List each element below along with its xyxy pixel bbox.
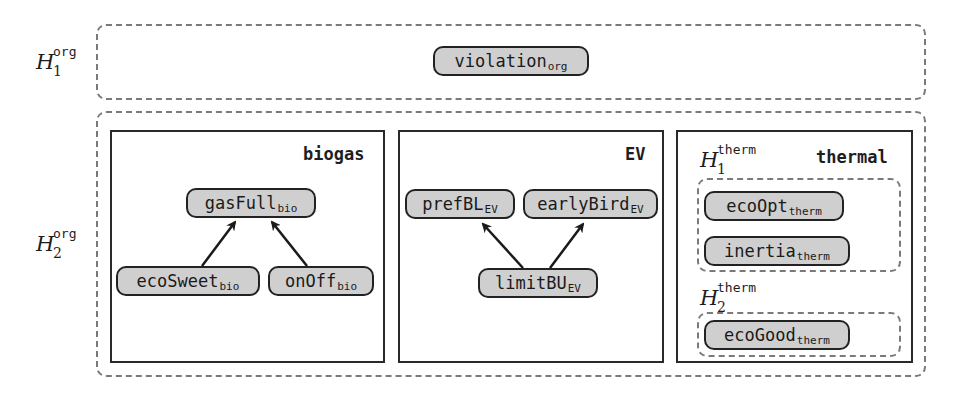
h1-therm-symbol: H (700, 148, 718, 172)
node-earlyBird[interactable]: earlyBirdEV (523, 189, 658, 219)
h2-symbol: H (36, 232, 54, 256)
h2-therm-symbol: H (700, 286, 718, 310)
node-ecoSweet[interactable]: ecoSweetbio (116, 266, 260, 296)
h1-therm-label: H therm 1 (700, 148, 718, 172)
node-violation[interactable]: violationorg (433, 46, 589, 76)
h2-sub: 2 (53, 245, 62, 261)
node-subscript: bio (220, 280, 240, 293)
h1-symbol: H (36, 50, 54, 74)
node-subscript: bio (337, 280, 357, 293)
node-label: inertia (724, 241, 796, 261)
group-biogas-title: biogas (303, 144, 364, 164)
node-label: ecoGood (724, 325, 796, 345)
node-inertia[interactable]: inertiatherm (704, 236, 850, 266)
node-prefBL[interactable]: prefBLEV (405, 189, 515, 219)
h1-sup: org (53, 44, 76, 59)
group-ev (398, 130, 664, 363)
node-gasFull[interactable]: gasFullbio (186, 188, 316, 218)
node-label: violation (455, 51, 547, 71)
node-label: prefBL (422, 194, 483, 214)
node-subscript: EV (568, 282, 581, 295)
node-label: limitBU (495, 273, 567, 293)
group-thermal-title: thermal (816, 147, 888, 167)
h1-therm-sup: therm (717, 142, 756, 157)
node-label: earlyBird (537, 194, 629, 214)
node-limitBU[interactable]: limitBUEV (478, 268, 598, 298)
node-subscript: therm (797, 334, 830, 347)
h1-org-label: H org 1 (36, 50, 54, 74)
h1-sub: 1 (53, 63, 62, 79)
h2-therm-sup: therm (717, 280, 756, 295)
node-label: onOff (285, 271, 336, 291)
node-subscript: therm (797, 250, 830, 263)
node-subscript: EV (485, 203, 498, 216)
h1-therm-sub: 1 (717, 161, 726, 177)
node-label: ecoSweet (137, 271, 219, 291)
h2-therm-label: H therm 2 (700, 286, 718, 310)
node-subscript: therm (789, 205, 822, 218)
node-label: ecoOpt (726, 196, 787, 216)
node-onOff[interactable]: onOffbio (268, 266, 374, 296)
node-ecoOpt[interactable]: ecoOpttherm (704, 191, 844, 221)
group-ev-title: EV (625, 144, 645, 164)
node-subscript: org (548, 60, 568, 73)
node-subscript: bio (277, 202, 297, 215)
h2-sup: org (53, 226, 76, 241)
h2-org-label: H org 2 (36, 232, 54, 256)
node-ecoGood[interactable]: ecoGoodtherm (704, 320, 850, 350)
node-subscript: EV (630, 203, 643, 216)
group-biogas (110, 130, 385, 363)
node-label: gasFull (205, 193, 277, 213)
